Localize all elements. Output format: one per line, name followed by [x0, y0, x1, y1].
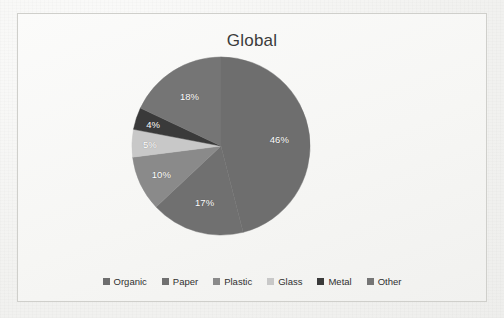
legend-item-plastic[interactable]: Plastic	[213, 276, 252, 287]
pie-label-paper: 17%	[195, 197, 214, 208]
legend-swatch-icon-glass	[267, 278, 274, 285]
legend-swatch-icon-other	[367, 278, 374, 285]
pie-label-glass: 5%	[143, 138, 157, 149]
legend-item-organic[interactable]: Organic	[103, 276, 147, 287]
legend-label: Paper	[173, 276, 198, 287]
legend-item-metal[interactable]: Metal	[317, 276, 351, 287]
legend-label: Metal	[328, 276, 351, 287]
pie-label-organic: 46%	[270, 133, 289, 144]
legend-swatch-icon-metal	[317, 278, 324, 285]
pie-slice-group	[132, 57, 310, 235]
legend-swatch-icon-organic	[103, 278, 110, 285]
legend-swatch-icon-paper	[162, 278, 169, 285]
legend-item-paper[interactable]: Paper	[162, 276, 198, 287]
chart-frame: Global 46%17%10%5%4%18% OrganicPaperPlas…	[17, 13, 487, 302]
legend-label: Glass	[278, 276, 302, 287]
legend-item-other[interactable]: Other	[367, 276, 402, 287]
legend-label: Other	[378, 276, 402, 287]
pie-chart-svg	[131, 56, 311, 236]
legend-item-glass[interactable]: Glass	[267, 276, 302, 287]
pie-chart-area: 46%17%10%5%4%18%	[18, 14, 488, 303]
legend-label: Organic	[114, 276, 147, 287]
pie-label-plastic: 10%	[152, 169, 171, 180]
pie-label-metal: 4%	[146, 118, 160, 129]
chart-legend: OrganicPaperPlasticGlassMetalOther	[18, 276, 486, 287]
legend-label: Plastic	[224, 276, 252, 287]
pie-label-other: 18%	[180, 91, 199, 102]
legend-swatch-icon-plastic	[213, 278, 220, 285]
